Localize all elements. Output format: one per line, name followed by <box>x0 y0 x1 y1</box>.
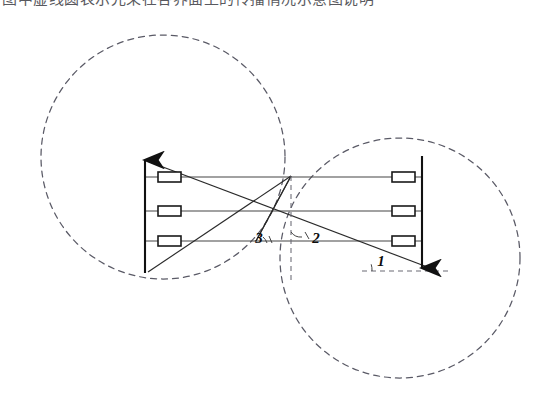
angle-label-3: 3 <box>254 230 263 246</box>
block-right-middle <box>392 206 415 216</box>
block-left-top <box>158 172 181 182</box>
angle-3-arc <box>263 237 267 243</box>
block-left-bottom <box>158 236 181 246</box>
angle-3-tick <box>269 236 272 243</box>
angle-label-2: 2 <box>311 230 320 246</box>
angle-label-1: 1 <box>377 253 385 269</box>
ray-diagram: 1 2 3 <box>0 0 556 416</box>
angle-1-arc <box>371 264 372 271</box>
block-left-middle <box>158 206 181 216</box>
diagram-page: 图中虚线圆表示光束在各界面上的传播情况示意图说明 <box>0 0 556 416</box>
block-right-bottom <box>392 236 415 246</box>
angle-2-tick <box>305 232 309 239</box>
angle-2-arc <box>291 232 302 237</box>
chord-lower-ascending <box>148 176 291 272</box>
block-right-top <box>392 172 415 182</box>
